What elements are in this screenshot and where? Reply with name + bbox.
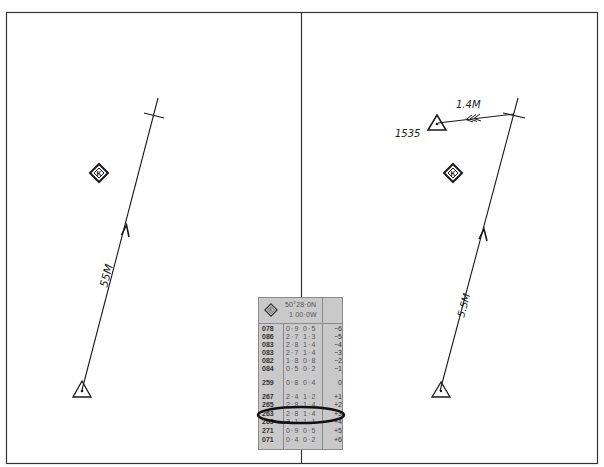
table-row-highlighted: 263 2·8 1·4 +3 (259, 410, 342, 418)
table-row: 086 2·7 1·3 −5 (259, 333, 342, 341)
tidal-stream-table: K 50°28·0N 1 00·0W 078 0·9 0·5 −6 086 2·… (258, 297, 343, 450)
tidal-diamond-k-icon: K (444, 164, 462, 182)
table-row: 259 0·8 0·4 0 (259, 379, 342, 387)
table-row: 271 0·9 0·5 +5 (259, 427, 342, 435)
fix-time-label: 1535 (395, 128, 420, 139)
fix-triangle-icon (432, 382, 450, 397)
table-row: 267 2·4 1·2 +1 (259, 393, 342, 401)
table-header: K 50°28·0N 1 00·0W (259, 298, 342, 324)
svg-text:K: K (450, 170, 455, 177)
course-distance-label: 55M (97, 262, 116, 289)
table-row: 078 0·9 0·5 −6 (259, 325, 342, 333)
table-row: 265 2·1 1·1 +4 (259, 418, 342, 426)
tidal-diamond-k-icon: K (264, 303, 278, 317)
course-line (440, 98, 518, 391)
left-panel: K 55M (73, 98, 164, 397)
right-panel: K 1.4M 1535 5.5M (395, 98, 525, 397)
table-row: 084 0·5 0·2 −1 (259, 365, 342, 373)
table-row: 083 2·7 1·4 −3 (259, 349, 342, 357)
table-longitude: 1 00·0W (289, 311, 317, 318)
table-row: 082 1·8 0·8 −2 (259, 357, 342, 365)
table-row: 265 2·8 1·4 +2 (259, 401, 342, 409)
table-row: 083 2·8 1·4 −4 (259, 341, 342, 349)
course-distance-label: 5.5M (455, 292, 472, 319)
chartwork-figure: K 55M (0, 0, 604, 467)
tidal-diamond-k-icon: K (90, 164, 108, 182)
table-row: 071 0·4 0·2 +6 (259, 436, 342, 444)
svg-text:K: K (96, 170, 101, 177)
course-line (82, 98, 158, 390)
table-latitude: 50°28·0N (285, 301, 316, 308)
tide-vector-label: 1.4M (456, 99, 481, 110)
